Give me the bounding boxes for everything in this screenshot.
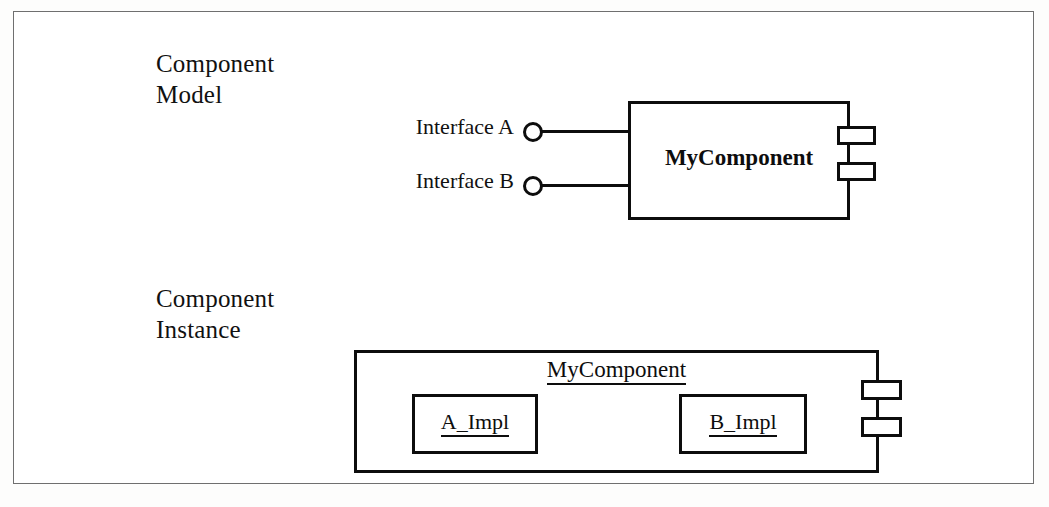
diagram-canvas: Component Model Interface A Interface B … [0,0,1049,507]
page-frame: Component Model Interface A Interface B … [13,11,1034,484]
part-a-impl-label-text: A_Impl [441,409,509,437]
interface-b-lollipop-icon [523,176,543,196]
section-caption-component-instance: Component Instance [156,283,274,345]
interface-b-label: Interface B [364,168,514,194]
interface-a-lollipop-icon [523,122,543,142]
component-instance-name: MyComponent [354,357,879,383]
component-model-tab-upper-icon [837,126,876,145]
component-model-tab-lower-icon [837,162,876,181]
part-a-impl-label: A_Impl [412,409,538,435]
interface-a-connector [541,130,630,133]
section-caption-component-model: Component Model [156,48,274,110]
component-instance-tab-upper-icon [861,380,902,400]
component-instance-tab-lower-icon [861,417,902,437]
part-b-impl-label: B_Impl [679,409,807,435]
component-model-name: MyComponent [628,145,850,171]
interface-b-connector [541,184,630,187]
interface-a-label: Interface A [364,114,514,140]
part-b-impl-label-text: B_Impl [709,409,776,437]
component-instance-name-text: MyComponent [547,357,686,385]
